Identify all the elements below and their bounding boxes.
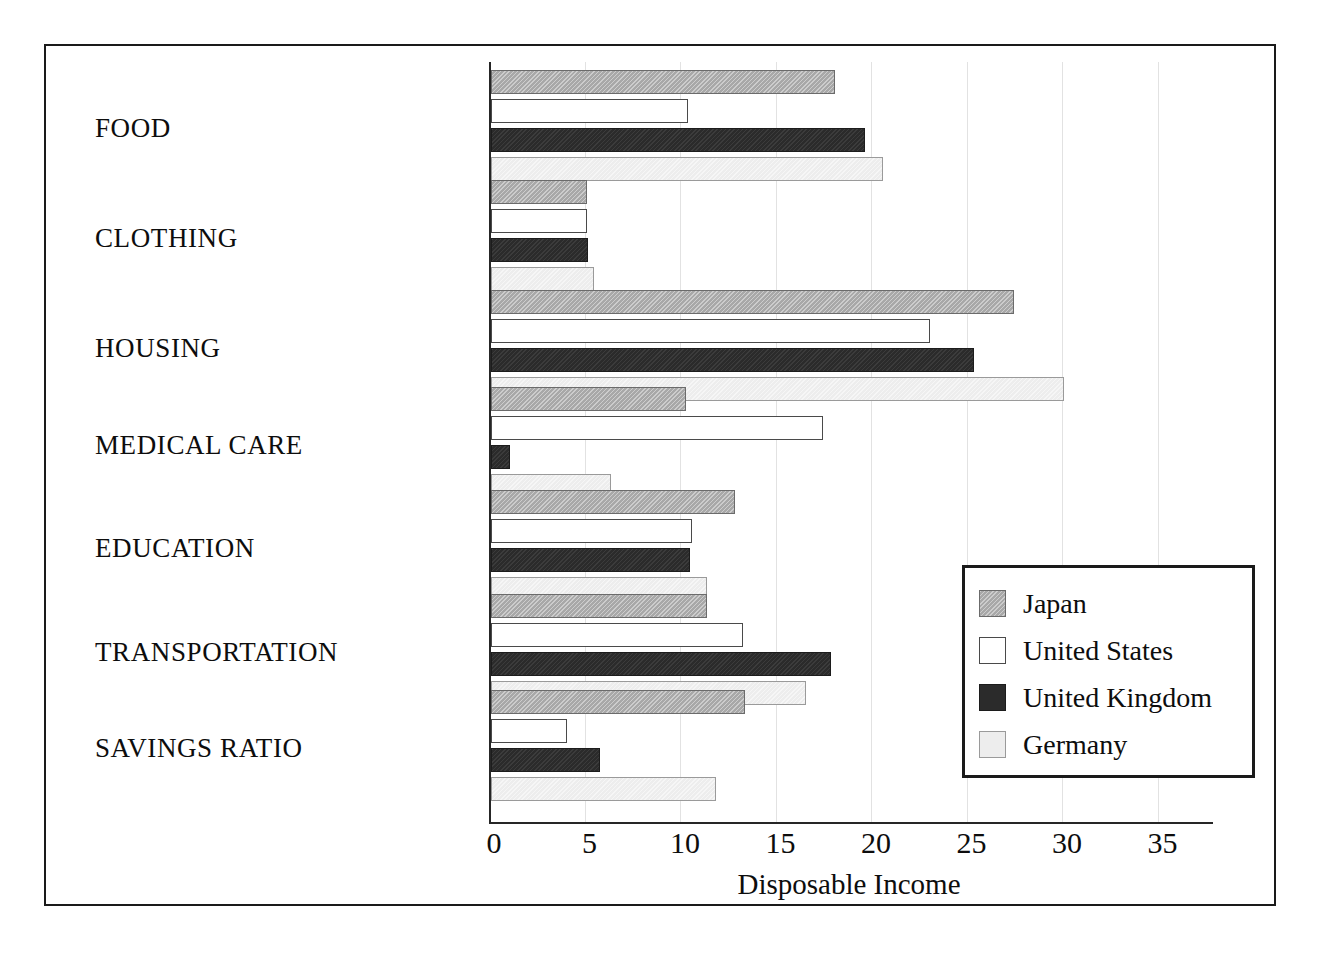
bar-japan-medical-care <box>491 387 686 411</box>
legend-swatch-uk-icon <box>979 684 1006 711</box>
bar-row <box>491 490 1213 514</box>
category-label-savings-ratio: SAVINGS RATIO <box>95 733 455 764</box>
category-label-education: EDUCATION <box>95 533 455 564</box>
bar-row <box>491 416 1213 440</box>
chart-legend: JapanUnited StatesUnited KingdomGermany <box>962 565 1255 778</box>
category-label-transportation: TRANSPORTATION <box>95 637 455 668</box>
legend-label: United Kingdom <box>1023 682 1212 714</box>
bar-japan-housing <box>491 290 1014 314</box>
bar-row <box>491 348 1213 372</box>
legend-label: Japan <box>1023 588 1087 620</box>
bar-us-education <box>491 519 692 543</box>
category-label-food: FOOD <box>95 113 455 144</box>
category-label-clothing: CLOTHING <box>95 223 455 254</box>
legend-item-us: United States <box>979 627 1252 674</box>
bar-row <box>491 157 1213 181</box>
legend-item-japan: Japan <box>979 580 1252 627</box>
bar-us-transportation <box>491 623 743 647</box>
legend-swatch-us-icon <box>979 637 1006 664</box>
bar-row <box>491 777 1213 801</box>
bar-row <box>491 387 1213 411</box>
bar-japan-clothing <box>491 180 587 204</box>
bar-japan-food <box>491 70 835 94</box>
bar-us-savings-ratio <box>491 719 567 743</box>
x-tick-25: 25 <box>957 826 987 860</box>
bar-row <box>491 445 1213 469</box>
chart-canvas: FOODCLOTHINGHOUSINGMEDICAL CAREEDUCATION… <box>0 0 1323 961</box>
bar-row <box>491 267 1213 291</box>
bar-row <box>491 99 1213 123</box>
bar-row <box>491 70 1213 94</box>
category-label-medical-care: MEDICAL CARE <box>95 430 455 461</box>
bar-uk-transportation <box>491 652 831 676</box>
bar-us-clothing <box>491 209 587 233</box>
bar-row <box>491 290 1213 314</box>
legend-label: Germany <box>1023 729 1127 761</box>
bar-row <box>491 128 1213 152</box>
x-tick-0: 0 <box>487 826 502 860</box>
bar-row <box>491 180 1213 204</box>
legend-swatch-japan-icon <box>979 590 1006 617</box>
bar-us-housing <box>491 319 930 343</box>
bar-germany-food <box>491 157 883 181</box>
x-tick-15: 15 <box>766 826 796 860</box>
category-label-housing: HOUSING <box>95 333 455 364</box>
bar-japan-savings-ratio <box>491 690 745 714</box>
bar-group-medical-care <box>491 387 1213 503</box>
x-tick-30: 30 <box>1052 826 1082 860</box>
legend-label: United States <box>1023 635 1173 667</box>
bar-us-food <box>491 99 688 123</box>
x-tick-5: 5 <box>582 826 597 860</box>
x-axis-line <box>489 822 1213 824</box>
bar-row <box>491 209 1213 233</box>
bar-uk-clothing <box>491 238 588 262</box>
legend-swatch-germany-icon <box>979 731 1006 758</box>
legend-item-germany: Germany <box>979 721 1252 768</box>
bar-group-food <box>491 70 1213 186</box>
bar-germany-savings-ratio <box>491 777 716 801</box>
bar-uk-food <box>491 128 865 152</box>
bar-uk-savings-ratio <box>491 748 600 772</box>
x-tick-35: 35 <box>1148 826 1178 860</box>
bar-row <box>491 319 1213 343</box>
legend-item-uk: United Kingdom <box>979 674 1252 721</box>
bar-germany-clothing <box>491 267 594 291</box>
bar-us-medical-care <box>491 416 823 440</box>
x-tick-10: 10 <box>670 826 700 860</box>
bar-japan-transportation <box>491 594 707 618</box>
x-axis-title: Disposable Income <box>487 868 1211 901</box>
bar-uk-education <box>491 548 690 572</box>
bar-uk-housing <box>491 348 974 372</box>
bar-row <box>491 519 1213 543</box>
bar-row <box>491 238 1213 262</box>
x-tick-20: 20 <box>861 826 891 860</box>
bar-uk-medical-care <box>491 445 510 469</box>
bar-group-clothing <box>491 180 1213 296</box>
bar-japan-education <box>491 490 735 514</box>
